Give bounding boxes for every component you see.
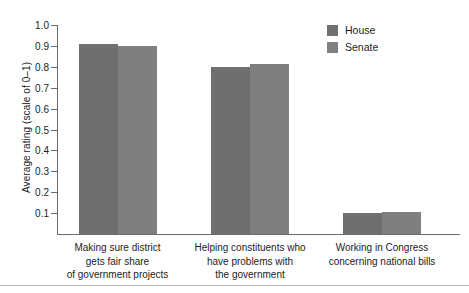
x-axis-line xyxy=(57,234,460,235)
y-axis-tick-label: 0.2 xyxy=(3,187,49,198)
y-axis-tick-label: 0.4 xyxy=(3,145,49,156)
figure-bottom-rule xyxy=(0,285,469,286)
category-label-3: Working in Congressconcerning national b… xyxy=(302,241,462,268)
bar-house-group-1 xyxy=(79,44,118,234)
legend-item-house: House xyxy=(327,22,378,39)
legend-swatch-icon xyxy=(327,42,338,53)
bar-house-group-2 xyxy=(211,67,250,234)
category-label-line: Working in Congress xyxy=(302,241,462,255)
y-axis-line xyxy=(57,25,58,234)
legend-label: Senate xyxy=(345,42,378,53)
y-axis-tick-label: 0.8 xyxy=(3,61,49,72)
bar-house-group-3 xyxy=(343,213,382,234)
legend: HouseSenate xyxy=(327,22,378,56)
bar-senate-group-3 xyxy=(382,212,421,234)
category-label-line: concerning national bills xyxy=(302,255,462,269)
y-axis-tick-label: 0.3 xyxy=(3,166,49,177)
y-axis-tick-label: 0.9 xyxy=(3,40,49,51)
y-axis-tick-label: 1.0 xyxy=(3,20,49,31)
category-label-line: the government xyxy=(170,268,330,282)
y-axis-tick-label: 0.6 xyxy=(3,103,49,114)
y-axis-tick-label: 0.5 xyxy=(3,124,49,135)
bar-senate-group-1 xyxy=(118,46,157,234)
y-axis-tick-label: 0.1 xyxy=(3,208,49,219)
bar-chart-figure: Average rating (scale of 0–1) 1.00.90.80… xyxy=(0,0,469,293)
y-axis-tick-label: 0.7 xyxy=(3,82,49,93)
legend-label: House xyxy=(345,25,375,36)
legend-swatch-icon xyxy=(327,25,338,36)
legend-item-senate: Senate xyxy=(327,39,378,56)
bar-senate-group-2 xyxy=(250,64,289,234)
